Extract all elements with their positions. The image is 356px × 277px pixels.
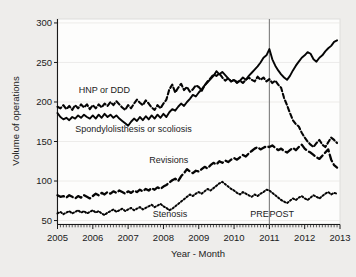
x-tick-label: 2009: [188, 232, 209, 243]
y-tick-label: 250: [36, 57, 52, 68]
series-label-hnp-or-ddd: HNP or DDD: [79, 85, 131, 95]
y-axis-tick-labels: 50100150200250300: [36, 17, 52, 226]
line-chart: 50100150200250300 2005200620072008200920…: [0, 0, 356, 277]
x-axis-minor-ticks: [58, 225, 341, 230]
plot-background: [57, 19, 340, 224]
series-label-revisions: Revisions: [149, 155, 189, 165]
x-tick-label: 2008: [153, 232, 174, 243]
figure-canvas: 50100150200250300 2005200620072008200920…: [0, 0, 356, 277]
x-tick-label: 2012: [294, 232, 315, 243]
x-axis-title: Year - Month: [171, 248, 225, 259]
x-tick-label: 2011: [259, 232, 279, 243]
x-tick-label: 2006: [82, 232, 103, 243]
y-tick-label: 150: [36, 136, 52, 147]
x-tick-label: 2013: [329, 232, 350, 243]
y-tick-label: 50: [41, 215, 52, 226]
period-label-post: POST: [269, 209, 294, 219]
x-tick-label: 2005: [47, 232, 68, 243]
x-tick-label: 2007: [118, 232, 139, 243]
x-axis-tick-labels: 200520062007200820092010201120122013: [47, 232, 351, 243]
period-label-pre: PRE: [250, 209, 269, 219]
y-axis-title: Volume of operations: [10, 76, 21, 166]
series-label-stenosis: Stenosis: [153, 209, 188, 219]
x-tick-label: 2010: [223, 232, 244, 243]
y-tick-label: 100: [36, 175, 52, 186]
series-label-spondylolisthesis-or-scoliosis: Spondylolisthesis or scoliosis: [75, 124, 192, 134]
y-tick-label: 300: [36, 17, 52, 28]
y-tick-label: 200: [36, 96, 52, 107]
